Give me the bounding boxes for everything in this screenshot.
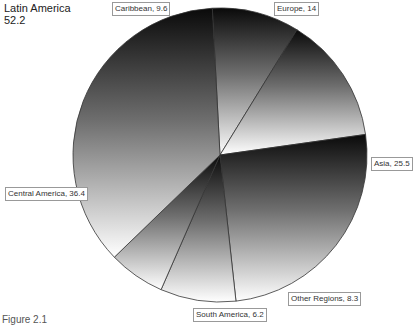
label-caribbean: Caribbean, 9.6 bbox=[112, 2, 170, 16]
label-south-america: South America, 6.2 bbox=[193, 308, 267, 322]
pie-slice-asia bbox=[220, 134, 367, 301]
label-asia: Asia, 25.5 bbox=[371, 157, 413, 171]
label-central-america: Central America, 36.4 bbox=[5, 187, 88, 201]
label-other-regions: Other Regions, 8.3 bbox=[288, 292, 361, 306]
figure-caption: Figure 2.1 bbox=[2, 314, 47, 325]
label-europe: Europe, 14 bbox=[274, 2, 319, 16]
